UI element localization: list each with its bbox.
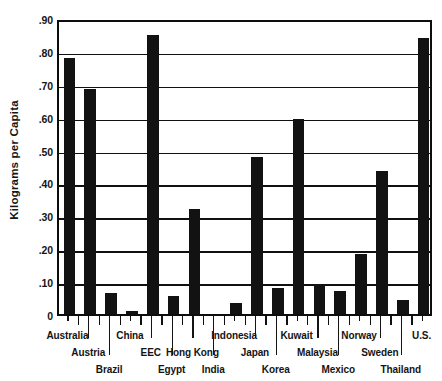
x-axis-category-label: Korea xyxy=(262,364,290,375)
chart-page: Kilograms per Capita .90.80.70.60.50.40.… xyxy=(0,0,442,381)
label-leader-line xyxy=(401,316,402,355)
x-axis-category-label: Australia xyxy=(46,330,88,341)
y-axis-tick-label: .70 xyxy=(39,80,53,92)
x-axis-category-label: Malaysia xyxy=(297,347,338,358)
y-axis-tick-label: .30 xyxy=(39,211,53,223)
label-leader-line xyxy=(88,316,89,338)
y-axis-tick-label: .80 xyxy=(39,47,53,59)
bar-series xyxy=(59,22,430,314)
bar xyxy=(251,157,263,315)
y-axis-tick-label: .10 xyxy=(39,277,53,289)
plot-area xyxy=(57,20,432,316)
y-axis-tick-label: .40 xyxy=(39,178,53,190)
y-axis-title: Kilograms per Capita xyxy=(2,0,26,320)
label-leader-line xyxy=(192,316,193,338)
bar xyxy=(105,293,117,314)
x-axis-category-label: China xyxy=(116,330,143,341)
x-axis-category-labels: AustraliaAustriaBrazilChinaEECEgyptHong … xyxy=(0,316,442,381)
bar xyxy=(418,38,430,314)
x-axis-category-label: Egypt xyxy=(158,364,185,375)
x-axis-category-label: Mexico xyxy=(322,364,355,375)
bar xyxy=(189,209,201,314)
x-axis-category-label: Norway xyxy=(341,330,377,341)
y-axis-title-text: Kilograms per Capita xyxy=(8,100,20,220)
x-axis-category-label: Indonesia xyxy=(211,330,257,341)
label-leader-line xyxy=(317,316,318,338)
label-leader-line xyxy=(422,316,423,321)
x-axis-category-label: India xyxy=(202,364,225,375)
bar xyxy=(230,303,242,314)
bar xyxy=(147,35,159,314)
label-leader-line xyxy=(338,316,339,355)
x-axis-category-label: Kuwait xyxy=(280,330,312,341)
x-axis-category-label: Austria xyxy=(71,347,105,358)
label-leader-line xyxy=(255,316,256,338)
x-axis-category-label: U.S. xyxy=(412,330,431,341)
bar xyxy=(397,300,409,314)
y-axis-tick-label: .50 xyxy=(39,146,53,158)
bar xyxy=(272,288,284,314)
y-axis-tick-label: .20 xyxy=(39,244,53,256)
label-leader-line xyxy=(359,316,360,321)
y-axis-tick-label: .90 xyxy=(39,14,53,26)
label-leader-line xyxy=(380,316,381,338)
bar xyxy=(84,89,96,314)
bar xyxy=(64,58,76,314)
bar xyxy=(376,171,388,314)
bar xyxy=(334,291,346,314)
bar xyxy=(355,254,367,314)
label-leader-line xyxy=(151,316,152,338)
label-leader-line xyxy=(67,316,68,321)
bar xyxy=(293,119,305,314)
bar xyxy=(126,311,138,314)
x-axis-category-label: Thailand xyxy=(381,364,421,375)
y-axis-tick-label: .60 xyxy=(39,113,53,125)
x-axis-category-label: Sweden xyxy=(361,347,398,358)
label-leader-line xyxy=(234,316,235,321)
x-axis-category-label: Brazil xyxy=(96,364,123,375)
x-axis-category-label: EEC xyxy=(141,347,161,358)
label-leader-line xyxy=(109,316,110,355)
x-axis-category-label: Hong Kong xyxy=(166,347,219,358)
bar xyxy=(168,296,180,314)
label-leader-line xyxy=(276,316,277,355)
bar xyxy=(314,285,326,314)
label-leader-line xyxy=(130,316,131,321)
label-leader-line xyxy=(297,316,298,321)
x-axis-category-label: Japan xyxy=(241,347,269,358)
